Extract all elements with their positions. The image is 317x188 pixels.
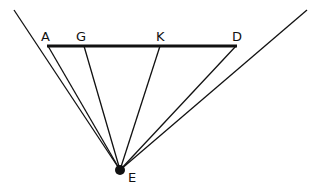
- segment-EK: [120, 46, 160, 170]
- point-E: [115, 165, 125, 175]
- right-ray: [120, 10, 307, 170]
- geometry-diagram: A G K D E: [0, 0, 317, 188]
- segment-EG: [84, 46, 120, 170]
- label-D: D: [232, 29, 242, 44]
- label-A: A: [41, 29, 50, 44]
- label-G: G: [76, 29, 86, 44]
- left-ray: [14, 10, 120, 170]
- segment-ED: [120, 46, 236, 170]
- segment-EA: [48, 46, 120, 170]
- label-K: K: [156, 29, 165, 44]
- label-E: E: [128, 170, 136, 185]
